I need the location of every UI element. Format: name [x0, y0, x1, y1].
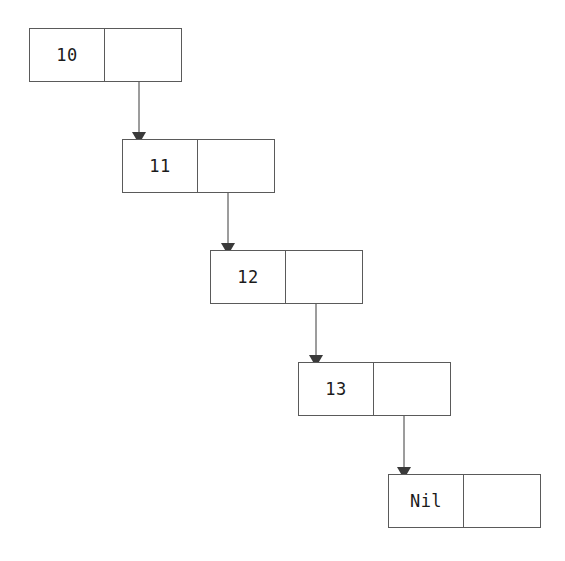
node-value-cell: Nil — [389, 475, 464, 527]
node-next-pointer-cell — [464, 475, 540, 527]
node-value-cell: 13 — [299, 363, 374, 415]
node-value-label: 10 — [56, 47, 77, 64]
list-node[interactable]: 13 — [298, 362, 451, 416]
list-node[interactable]: Nil — [388, 474, 541, 528]
node-value-label: 11 — [149, 158, 170, 175]
node-next-pointer-cell — [105, 29, 181, 81]
node-value-label: Nil — [410, 493, 442, 510]
list-node[interactable]: 10 — [29, 28, 182, 82]
list-edge — [309, 304, 323, 367]
node-next-pointer-cell — [198, 140, 274, 192]
node-value-label: 12 — [237, 269, 258, 286]
node-value-label: 13 — [325, 381, 346, 398]
node-value-cell: 12 — [211, 251, 286, 303]
node-value-cell: 11 — [123, 140, 198, 192]
node-value-cell: 10 — [30, 29, 105, 81]
list-edge — [397, 416, 411, 479]
list-edge — [221, 193, 235, 255]
list-edge — [132, 82, 146, 144]
linked-list-diagram: 10111213Nil — [0, 0, 565, 561]
node-next-pointer-cell — [286, 251, 362, 303]
node-next-pointer-cell — [374, 363, 450, 415]
list-node[interactable]: 11 — [122, 139, 275, 193]
list-node[interactable]: 12 — [210, 250, 363, 304]
